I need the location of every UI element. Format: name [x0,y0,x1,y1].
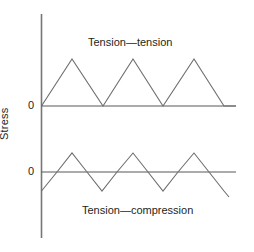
annotation-tension-tension: Tension—tension [88,36,172,48]
series-tension-tension-waveform [42,59,237,106]
annotation-tension-compression: Tension—compression [82,204,193,216]
y-tick-label-zero-bottom: 0 [28,165,34,177]
y-axis-label: Stress [0,116,10,140]
series-tension-compression-waveform [42,153,230,197]
y-tick-label-zero-top: 0 [28,99,34,111]
fatigue-stress-cycle-figure: Stress 0 0 Tension—tension Tension—compr… [0,0,254,252]
